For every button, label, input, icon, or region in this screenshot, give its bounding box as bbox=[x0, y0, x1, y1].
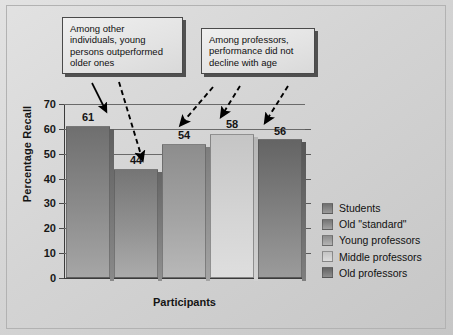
legend-swatch-old-standard bbox=[322, 219, 333, 230]
legend-swatch-old-professors bbox=[322, 267, 333, 278]
legend-label-old-professors: Old professors bbox=[339, 267, 407, 279]
callout-right: Among professors, performance did not de… bbox=[201, 28, 315, 74]
y-tick-0: 0 bbox=[28, 273, 56, 284]
bar-value-label-old-professors: 56 bbox=[258, 126, 302, 137]
chart-legend: Students Old "standard" Young professors… bbox=[322, 200, 448, 281]
bar-young-professors-face bbox=[162, 144, 206, 278]
callout-right-line-2: performance did not bbox=[209, 45, 308, 56]
callout-right-line-1: Among professors, bbox=[209, 34, 308, 45]
legend-item-young-professors[interactable]: Young professors bbox=[322, 232, 448, 248]
legend-label-young-professors: Young professors bbox=[339, 234, 420, 246]
bar-value-label-middle-professors: 58 bbox=[210, 119, 254, 130]
bar-value-label-young-professors: 54 bbox=[162, 130, 206, 141]
gridline-70 bbox=[64, 104, 305, 105]
bar-middle-professors-face bbox=[210, 134, 254, 278]
legend-item-old-professors[interactable]: Old professors bbox=[322, 265, 448, 281]
callout-left: Among other individuals, young persons o… bbox=[62, 17, 183, 74]
x-axis-line bbox=[64, 278, 306, 279]
legend-swatch-students bbox=[322, 203, 333, 214]
bar-students-face bbox=[66, 126, 110, 278]
x-axis-title: Participants bbox=[64, 296, 305, 308]
callout-left-line-3: persons outperformed bbox=[70, 46, 176, 57]
legend-label-students: Students bbox=[339, 202, 380, 214]
callout-left-line-2: individuals, young bbox=[70, 34, 176, 45]
bar-middle-professors[interactable] bbox=[210, 134, 254, 278]
y-tick-mark-right-60 bbox=[305, 129, 311, 130]
legend-swatch-young-professors bbox=[322, 235, 333, 246]
bar-old-standard-face bbox=[114, 169, 158, 278]
bar-students[interactable] bbox=[66, 126, 110, 278]
bar-old-standard[interactable] bbox=[114, 169, 158, 278]
bar-young-professors[interactable] bbox=[162, 144, 206, 278]
legend-item-old-standard[interactable]: Old "standard" bbox=[322, 216, 448, 232]
y-tick-10: 10 bbox=[28, 248, 56, 259]
bar-old-professors-face bbox=[258, 139, 302, 278]
y-tick-20: 20 bbox=[28, 223, 56, 234]
bar-old-professors-side bbox=[302, 142, 306, 281]
y-axis-title: Percentage Recall bbox=[21, 84, 33, 224]
legend-label-old-standard: Old "standard" bbox=[339, 218, 407, 230]
callout-right-line-3: decline with age bbox=[209, 57, 308, 68]
legend-swatch-middle-professors bbox=[322, 251, 333, 262]
legend-label-middle-professors: Middle professors bbox=[339, 251, 422, 263]
callout-left-line-1: Among other bbox=[70, 23, 176, 34]
bar-old-professors[interactable] bbox=[258, 139, 302, 278]
chart-figure: 70 60 50 40 30 20 10 0 bbox=[0, 0, 453, 335]
bar-value-label-students: 61 bbox=[66, 112, 110, 123]
bar-value-label-old-standard: 44 bbox=[114, 155, 158, 166]
legend-item-students[interactable]: Students bbox=[322, 200, 448, 216]
legend-item-middle-professors[interactable]: Middle professors bbox=[322, 249, 448, 265]
callout-left-line-4: older ones bbox=[70, 57, 176, 68]
